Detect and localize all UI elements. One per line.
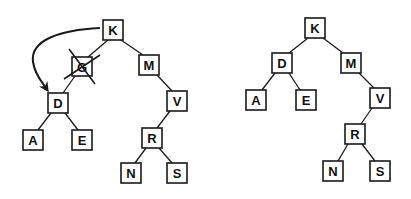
edge-D-E: [289, 73, 300, 90]
edge-K-D: [289, 38, 308, 53]
node-label: R: [147, 131, 157, 146]
right-node-N: N: [323, 161, 343, 181]
node-label: D: [277, 56, 286, 71]
edge-V-R: [157, 111, 170, 128]
node-label: D: [53, 96, 62, 111]
node-label: A: [28, 133, 38, 148]
right-node-M: M: [341, 53, 361, 73]
edge-K-M: [323, 38, 343, 53]
left-node-S: S: [167, 163, 187, 183]
edge-R-S: [159, 148, 172, 163]
right-node-E: E: [296, 90, 316, 110]
right-node-S: S: [370, 161, 390, 181]
edge-K-M: [121, 40, 143, 55]
node-label: V: [173, 94, 182, 109]
left-node-D: D: [48, 93, 68, 113]
left-node-G-deleted: G: [64, 49, 100, 84]
left-node-E: E: [72, 130, 92, 150]
edge-D-A: [38, 113, 51, 130]
edge-R-S: [362, 144, 375, 161]
right-node-A: A: [246, 90, 266, 110]
edge-R-N: [135, 148, 146, 163]
node-label: K: [310, 21, 320, 36]
node-label: S: [376, 164, 385, 179]
edge-D-E: [65, 113, 78, 130]
edge-M-V: [157, 75, 172, 91]
node-label: S: [173, 166, 182, 181]
left-tree: K G M D V A E R: [23, 20, 187, 183]
tree-diagram: K G M D V A E R: [0, 0, 411, 199]
right-node-D: D: [272, 53, 292, 73]
right-node-R: R: [345, 124, 365, 144]
edge-D-A: [262, 73, 275, 90]
left-node-V: V: [167, 91, 187, 111]
node-label: K: [108, 23, 118, 38]
edge-V-R: [361, 108, 372, 124]
node-label: V: [376, 91, 385, 106]
node-label: E: [78, 133, 87, 148]
left-node-N: N: [121, 163, 141, 183]
node-label: M: [144, 58, 155, 73]
left-node-M: M: [139, 55, 159, 75]
edge-M-V: [359, 73, 374, 88]
left-node-R: R: [142, 128, 162, 148]
right-node-K: K: [305, 18, 325, 38]
right-tree: K D M A E V R N: [246, 18, 390, 181]
edge-R-N: [338, 144, 348, 161]
node-label: R: [350, 127, 360, 142]
left-node-A: A: [23, 130, 43, 150]
node-label: M: [346, 56, 357, 71]
node-label: E: [302, 93, 311, 108]
node-label: A: [251, 93, 261, 108]
left-node-K: K: [103, 20, 123, 40]
node-label: N: [126, 166, 135, 181]
right-node-V: V: [370, 88, 390, 108]
edge-K-G: [88, 40, 108, 57]
node-label: N: [328, 164, 337, 179]
